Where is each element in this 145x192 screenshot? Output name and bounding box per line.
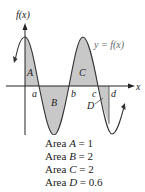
point-label-b: b <box>71 88 76 99</box>
area-region: B <box>69 150 76 162</box>
region-label-c: C <box>79 67 86 78</box>
curve-label: y = f(x) <box>93 39 125 51</box>
point-label-a: a <box>32 88 37 99</box>
area-prefix: Area <box>45 137 69 149</box>
area-d-line: Area D = 0.6 <box>45 176 103 189</box>
point-label-d: d <box>111 88 117 99</box>
region-label-b: B <box>51 97 57 108</box>
y-axis-label: f(x) <box>16 9 31 21</box>
area-c-line: Area C = 2 <box>45 163 103 176</box>
region-label-d: D <box>86 100 95 111</box>
x-axis-arrow-icon <box>128 84 135 89</box>
area-region: D <box>69 176 77 188</box>
area-prefix: Area <box>45 176 69 188</box>
area-prefix: Area <box>45 150 69 162</box>
function-graph: f(x) x y = f(x) A B C D a b c d <box>0 0 145 135</box>
area-values: Area A = 1 Area B = 2 Area C = 2 Area D … <box>45 137 103 189</box>
area-value: = 1 <box>76 137 93 149</box>
area-a-line: Area A = 1 <box>45 137 103 150</box>
y-axis-arrow-icon <box>23 23 28 30</box>
point-label-c: c <box>92 88 97 99</box>
x-axis-label: x <box>135 81 141 92</box>
region-b-shade <box>39 86 69 135</box>
area-value: = 2 <box>76 150 93 162</box>
area-value: = 2 <box>76 163 93 175</box>
area-value: = 0.6 <box>77 176 102 188</box>
area-b-line: Area B = 2 <box>45 150 103 163</box>
region-a-shade <box>25 37 39 86</box>
area-region: A <box>69 137 76 149</box>
region-label-a: A <box>26 67 34 78</box>
area-prefix: Area <box>45 163 69 175</box>
